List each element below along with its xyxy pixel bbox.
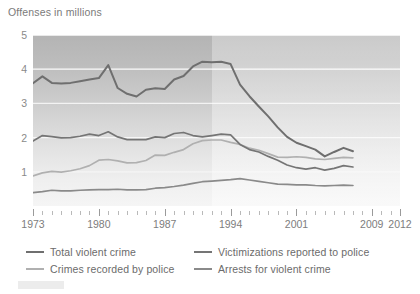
x-axis-tick-2004 — [325, 211, 326, 215]
x-axis-tick-label-2012: 2012 — [388, 218, 411, 230]
x-axis-tick-2000 — [287, 211, 288, 215]
x-axis-tick-1995 — [240, 211, 241, 215]
legend-swatch-icon — [26, 251, 44, 253]
x-axis-tick-1990 — [193, 211, 194, 215]
x-axis-tick-label-1980: 1980 — [87, 218, 110, 230]
x-axis-tick-1998 — [268, 211, 269, 215]
x-axis-tick-2001 — [296, 209, 297, 216]
x-axis-tick-1993 — [221, 211, 222, 215]
legend-label: Crimes recorded by police — [50, 263, 174, 275]
y-axis-tick-label-3: 3 — [21, 97, 27, 109]
plot-svg — [33, 35, 400, 206]
legend-label: Victimizations reported to police — [218, 246, 369, 258]
x-axis-tick-1984 — [137, 211, 138, 215]
x-axis-tick-label-1987: 1987 — [153, 218, 176, 230]
x-axis-tick-1989 — [184, 211, 185, 215]
legend-item-arrests-for-violent-crime[interactable]: Arrests for violent crime — [194, 263, 416, 275]
x-axis: 1973198019871994200120092012 — [33, 206, 400, 232]
x-axis-tick-1987 — [165, 209, 166, 216]
x-axis-tick-2008 — [362, 211, 363, 215]
legend-swatch-icon — [194, 268, 212, 270]
y-axis-tick-label-2: 2 — [21, 132, 27, 144]
legend-label: Arrests for violent crime — [218, 263, 331, 275]
x-axis-tick-1975 — [52, 211, 53, 215]
y-axis-tick-label-5: 5 — [21, 29, 27, 41]
x-axis-tick-1985 — [146, 211, 147, 215]
x-axis-tick-2007 — [353, 211, 354, 215]
y-axis-tick-label-1: 1 — [21, 166, 27, 178]
x-axis-tick-1996 — [249, 211, 250, 215]
x-axis-tick-2010 — [381, 211, 382, 215]
x-axis-tick-1983 — [127, 211, 128, 215]
x-axis-tick-1986 — [155, 211, 156, 215]
x-axis-ticks — [33, 209, 400, 216]
x-axis-tick-label-1973: 1973 — [21, 218, 44, 230]
x-axis-tick-1978 — [80, 211, 81, 215]
x-axis-tick-1977 — [71, 211, 72, 215]
y-axis-tick-label-4: 4 — [21, 63, 27, 75]
series-line-total-violent-crime — [33, 62, 353, 157]
x-axis-tick-1979 — [89, 211, 90, 215]
x-axis-tick-1981 — [108, 211, 109, 215]
chart-figure: Offenses in millions 54321 1973198019871… — [0, 0, 420, 294]
x-axis-tick-1991 — [202, 211, 203, 215]
x-axis-tick-label-1994: 1994 — [219, 218, 242, 230]
legend-label: Total violent crime — [50, 246, 136, 258]
x-axis-tick-2012 — [400, 209, 401, 216]
legend-item-total-violent-crime[interactable]: Total violent crime — [26, 246, 194, 258]
x-axis-tick-1973 — [33, 209, 34, 216]
x-axis-tick-2006 — [344, 211, 345, 215]
x-axis-tick-1976 — [61, 211, 62, 215]
x-axis-tick-1974 — [42, 211, 43, 215]
x-axis-tick-label-2001: 2001 — [285, 218, 308, 230]
legend-swatch-icon — [26, 268, 44, 270]
x-axis-tick-1980 — [99, 209, 100, 216]
x-axis-tick-1997 — [259, 211, 260, 215]
x-axis-tick-1982 — [118, 211, 119, 215]
x-axis-tick-2011 — [391, 211, 392, 215]
x-axis-tick-2002 — [306, 211, 307, 215]
chart-legend: Total violent crime Victimizations repor… — [26, 243, 416, 277]
plot-area: 54321 — [33, 35, 400, 206]
x-axis-tick-2009 — [372, 209, 373, 216]
chart-title: Offenses in millions — [8, 6, 102, 18]
x-axis-tick-2003 — [315, 211, 316, 215]
legend-swatch-icon — [194, 251, 212, 253]
legend-item-crimes-recorded-by-police[interactable]: Crimes recorded by police — [26, 263, 194, 275]
x-axis-tick-1999 — [278, 211, 279, 215]
series-line-arrests-for-violent-crime — [33, 179, 353, 193]
x-axis-tick-1992 — [212, 211, 213, 215]
legend-item-victimizations-reported-to-police[interactable]: Victimizations reported to police — [194, 246, 416, 258]
x-axis-tick-label-2009: 2009 — [360, 218, 383, 230]
x-axis-tick-1994 — [231, 209, 232, 216]
x-axis-tick-2005 — [334, 211, 335, 215]
footer-placeholder-block — [18, 281, 64, 289]
x-axis-tick-1988 — [174, 211, 175, 215]
